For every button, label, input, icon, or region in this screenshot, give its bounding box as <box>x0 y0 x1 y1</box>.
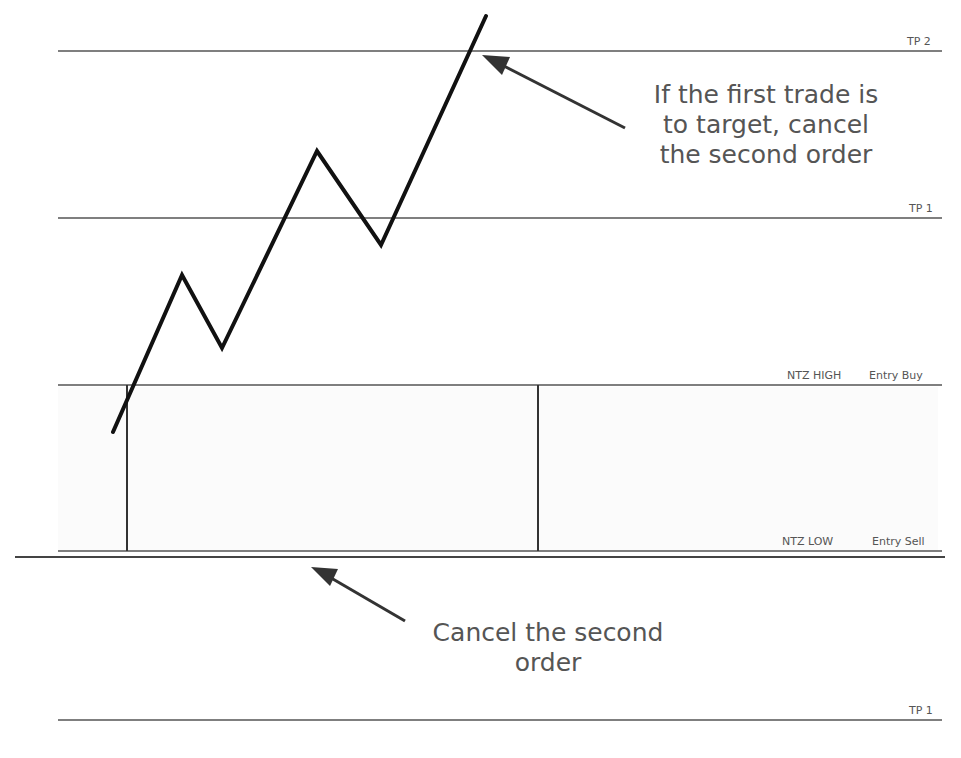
top-arrow-icon <box>482 55 625 128</box>
top-annotation-line-2: to target, cancel <box>616 110 916 140</box>
bottom-annotation-line-1: Cancel the second <box>398 618 698 648</box>
bottom-annotation-line-2: order <box>398 648 698 678</box>
tp1-lower-label: TP 1 <box>909 704 933 717</box>
tp1-upper-label: TP 1 <box>909 202 933 215</box>
ntz-high-label: NTZ HIGH <box>787 369 841 382</box>
tp2-label: TP 2 <box>907 35 931 48</box>
bottom-arrow-icon <box>311 567 405 621</box>
entry-sell-label: Entry Sell <box>872 535 925 548</box>
ntz-low-label: NTZ LOW <box>782 535 833 548</box>
price-path <box>113 16 486 432</box>
bottom-annotation: Cancel the second order <box>398 618 698 678</box>
entry-buy-label: Entry Buy <box>869 369 923 382</box>
top-annotation: If the first trade is to target, cancel … <box>616 80 916 170</box>
top-annotation-line-3: the second order <box>616 140 916 170</box>
ntz-zone <box>58 387 938 551</box>
top-annotation-line-1: If the first trade is <box>616 80 916 110</box>
